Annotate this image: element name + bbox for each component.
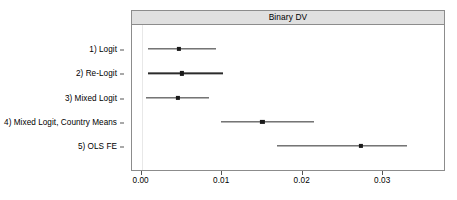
y-axis-tick-label: 2) Re-Logit bbox=[76, 70, 117, 78]
estimate-point-marker bbox=[180, 71, 184, 75]
x-axis: 0.000.010.020.03 bbox=[131, 171, 445, 200]
y-axis-tick-label: 5) OLS FE bbox=[78, 143, 117, 151]
confidence-interval-line bbox=[148, 73, 223, 74]
confidence-interval-line bbox=[277, 145, 407, 146]
x-axis-tick bbox=[302, 171, 303, 175]
y-axis-tick bbox=[120, 122, 124, 123]
x-axis-tick-label: 0.02 bbox=[294, 177, 310, 185]
confidence-interval-line bbox=[221, 121, 314, 122]
x-axis-tick-label: 0.00 bbox=[133, 177, 149, 185]
y-axis-tick bbox=[120, 74, 124, 75]
confidence-interval-line bbox=[148, 49, 216, 50]
x-axis-tick-label: 0.03 bbox=[374, 177, 390, 185]
y-axis-tick bbox=[120, 146, 124, 147]
estimate-point-marker bbox=[177, 47, 181, 51]
x-axis-tick-label: 0.01 bbox=[213, 177, 229, 185]
coefficient-plot-figure: 1) Logit2) Re-Logit3) Mixed Logit4) Mixe… bbox=[0, 0, 457, 200]
y-axis-tick bbox=[120, 50, 124, 51]
panel-strip-header: Binary DV bbox=[131, 10, 445, 25]
y-axis-tick-label: 4) Mixed Logit, Country Means bbox=[4, 119, 117, 127]
estimate-row bbox=[132, 115, 444, 129]
plot-panel: Binary DV bbox=[131, 10, 445, 171]
estimate-point-marker bbox=[176, 95, 180, 99]
y-axis-labels: 1) Logit2) Re-Logit3) Mixed Logit4) Mixe… bbox=[0, 26, 124, 171]
panel-strip-title: Binary DV bbox=[269, 13, 308, 21]
estimate-row bbox=[132, 139, 444, 153]
y-axis-tick-label: 3) Mixed Logit bbox=[65, 94, 117, 102]
x-axis-tick bbox=[221, 171, 222, 175]
y-axis-tick bbox=[120, 98, 124, 99]
estimate-point-marker bbox=[359, 144, 363, 148]
x-axis-tick bbox=[382, 171, 383, 175]
y-axis-tick-label: 1) Logit bbox=[89, 46, 117, 54]
estimate-row bbox=[132, 66, 444, 80]
estimate-point-marker bbox=[260, 120, 264, 124]
estimate-row bbox=[132, 42, 444, 56]
estimate-row bbox=[132, 91, 444, 105]
plot-area bbox=[131, 25, 445, 171]
x-axis-tick bbox=[141, 171, 142, 175]
